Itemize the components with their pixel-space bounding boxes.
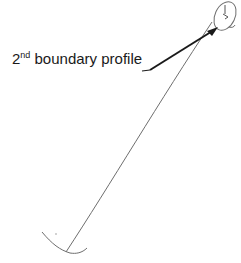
bottom-arc xyxy=(42,232,87,253)
boundary-profile-label: 2nd boundary profile xyxy=(12,50,142,68)
ordinal-suffix: nd xyxy=(20,50,30,60)
ellipse-inner-mark xyxy=(223,5,228,19)
diagram-canvas xyxy=(0,0,241,263)
arrowhead-icon xyxy=(207,27,218,36)
bottom-point xyxy=(55,233,57,235)
label-text: boundary profile xyxy=(30,50,142,67)
pointer-arrow-shaft xyxy=(150,30,214,70)
leader-line xyxy=(142,70,150,71)
